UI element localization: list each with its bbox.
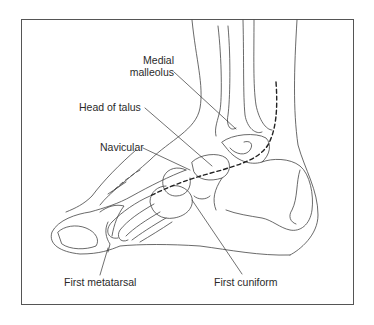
- leader-head-of-talus: [145, 108, 212, 166]
- label-first-cuniform: First cuniform: [214, 276, 278, 288]
- label-medial-malleolus: Medial malleolus: [120, 54, 174, 78]
- label-navicular: Navicular: [100, 141, 144, 153]
- foot-outline: [51, 150, 290, 255]
- incision-dashed-line: [150, 82, 277, 196]
- leader-medial-malleolus: [174, 72, 236, 129]
- label-head-of-talus: Head of talus: [79, 101, 141, 113]
- tibia-fibula: [215, 20, 272, 136]
- label-first-metatarsal: First metatarsal: [64, 276, 136, 288]
- foot-illustration: [0, 0, 374, 325]
- leader-first-cuniform: [192, 200, 242, 274]
- tarsal-bones: [150, 135, 313, 231]
- leader-navicular: [143, 148, 190, 170]
- label-medial-malleolus-line2: malleolus: [120, 66, 174, 78]
- label-medial-malleolus-line1: Medial: [120, 54, 174, 66]
